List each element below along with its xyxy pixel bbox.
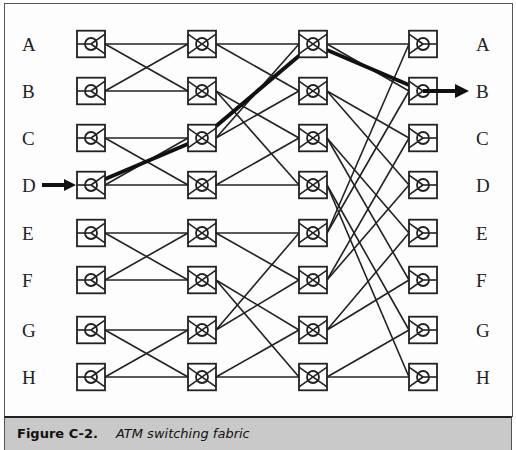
highlighted-segment [91,138,202,185]
figure-caption: Figure C-2.ATM switching fabric [17,426,250,441]
switch-element [77,317,105,344]
switch-element [77,172,105,199]
wire [327,280,409,330]
wire [216,91,299,185]
wire [216,233,299,280]
switch-element [409,364,437,391]
switch-element [188,125,216,152]
wire [216,233,299,330]
figure-number: Figure C-2. [17,426,98,441]
wire [327,44,409,233]
switch-element [299,78,327,105]
switch-element [299,220,327,247]
arrow-head-icon [64,179,76,191]
switch-element [188,364,216,391]
switch-element [299,31,327,58]
switch-element [409,31,437,58]
caption-band: Figure C-2.ATM switching fabric [4,416,512,450]
input-label-h: H [22,367,36,388]
input-label-e: E [22,223,34,244]
switch-element [188,172,216,199]
output-label-a: A [476,34,490,55]
wire [327,138,409,233]
arrow-head-icon [455,84,469,98]
switch-elements [77,31,437,391]
switch-element [299,125,327,152]
switch-element [409,220,437,247]
switch-element [299,267,327,294]
output-label-c: C [476,128,489,149]
output-label-h: H [476,367,490,388]
input-label-c: C [22,128,35,149]
input-label-g: G [22,320,36,341]
switch-element [188,78,216,105]
switch-element [77,125,105,152]
wire [327,91,409,138]
input-label-d: D [22,175,36,196]
switch-element [299,172,327,199]
switch-element [188,220,216,247]
switch-element [77,78,105,105]
output-label-f: F [476,270,487,291]
switch-element [188,31,216,58]
input-label-f: F [22,270,33,291]
switch-element [409,267,437,294]
switch-element [188,267,216,294]
output-label-e: E [476,223,488,244]
switch-element [409,172,437,199]
switching-fabric-diagram: ABCDEFGHABCDEFGH [0,0,516,416]
switch-element [77,31,105,58]
wire [216,330,299,377]
switch-element [188,317,216,344]
output-label-b: B [476,81,489,102]
output-label-g: G [476,320,490,341]
switch-element [77,267,105,294]
wire [216,280,299,377]
switch-element [409,125,437,152]
switch-element [409,317,437,344]
switch-element [77,220,105,247]
wire [327,233,409,330]
wire [216,138,299,185]
switch-element [77,364,105,391]
switch-element [299,364,327,391]
wire [327,185,409,280]
input-label-b: B [22,81,35,102]
input-label-a: A [22,34,36,55]
figure-title: ATM switching fabric [116,426,250,441]
wire [327,91,409,233]
output-label-d: D [476,175,490,196]
wire [327,330,409,377]
highlighted-segment [202,44,313,138]
switch-element [299,317,327,344]
